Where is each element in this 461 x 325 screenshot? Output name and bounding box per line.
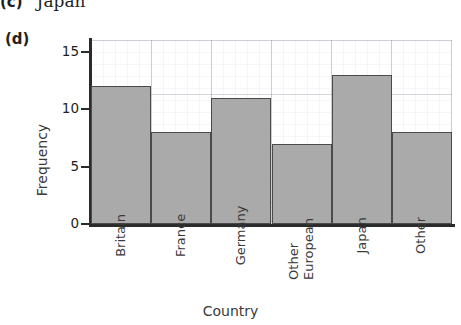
y-tick-label-10: 10: [53, 102, 79, 116]
bar-japan: [332, 75, 392, 225]
x-axis-line: [89, 224, 455, 227]
y-tick-0: [81, 223, 90, 225]
x-tick-label-france: France: [151, 228, 211, 306]
x-tick-label-japan: Japan: [332, 228, 392, 306]
x-tick-label-text: Germany: [234, 206, 249, 266]
y-axis-title: Frequency: [30, 100, 54, 220]
x-tick-label-text: OtherEuropean: [287, 218, 317, 280]
bar-france: [151, 132, 211, 224]
x-tick-label-other: Other: [392, 228, 452, 306]
x-axis-title: Country: [0, 303, 461, 319]
bar-britain: [91, 86, 151, 224]
y-tick-label-5: 5: [53, 160, 79, 174]
x-tick-labels: BritainFranceGermanyOtherEuropeanJapanOt…: [91, 228, 452, 308]
y-tick-15: [81, 51, 90, 53]
y-tick-label-15: 15: [53, 45, 79, 59]
y-tick-label-0: 0: [53, 217, 79, 231]
y-tick-5: [81, 166, 90, 168]
x-tick-label-text: Japan: [354, 217, 369, 253]
bar-other-european: [272, 144, 332, 225]
x-tick-label-other-european: OtherEuropean: [272, 228, 332, 306]
bar-other: [392, 132, 452, 224]
y-axis-title-text: Frequency: [34, 124, 50, 196]
x-tick-label-germany: Germany: [211, 228, 271, 306]
bar-chart-figure: 051015 BritainFranceGermanyOtherEuropean…: [0, 0, 461, 325]
x-tick-label-britain: Britain: [91, 228, 151, 306]
y-tick-10: [81, 108, 90, 110]
x-tick-label-text: France: [174, 214, 189, 257]
bar-series: [91, 40, 452, 224]
x-tick-label-text: Other: [414, 217, 429, 254]
x-tick-label-text: Britain: [114, 214, 129, 257]
